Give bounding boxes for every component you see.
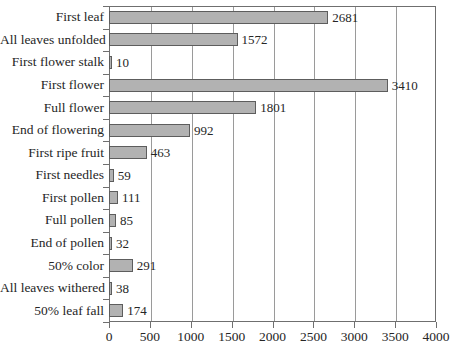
x-axis-tick (150, 322, 151, 328)
x-axis-tick (273, 322, 274, 328)
category-label: All leaves unfolded (0, 33, 104, 47)
bar-row: 85 (109, 213, 436, 227)
bar-value-label: 2681 (328, 11, 358, 24)
bar-series: 2681157210341018019924635911185322913817… (109, 6, 436, 322)
x-axis-tick-label: 3000 (341, 329, 368, 345)
bar-value-label: 38 (112, 282, 129, 295)
bar-value-label: 85 (116, 214, 133, 227)
bar (109, 259, 133, 272)
category-label: First ripe fruit (0, 146, 104, 160)
bar (109, 33, 238, 46)
bar-value-label: 174 (123, 304, 147, 317)
x-axis-tick-labels: 05001000150020002500300035004000 (109, 329, 436, 347)
bar-row: 174 (109, 304, 436, 318)
bar-row: 59 (109, 168, 436, 182)
x-axis-tick-label: 1500 (218, 329, 245, 345)
bar-row: 32 (109, 236, 436, 250)
category-label: 50% leaf fall (0, 304, 104, 318)
bar-value-label: 992 (190, 124, 214, 137)
bar-value-label: 10 (112, 56, 129, 69)
bar (109, 79, 388, 92)
bar-chart: First leafAll leaves unfoldedFirst flowe… (0, 0, 454, 349)
x-axis-tick-label: 0 (106, 329, 113, 345)
category-label: End of flowering (0, 123, 104, 137)
x-axis-tick (436, 322, 437, 328)
x-axis-tick-label: 2000 (259, 329, 286, 345)
bar-row: 1572 (109, 33, 436, 47)
category-label: First pollen (0, 191, 104, 205)
bar-row: 2681 (109, 10, 436, 24)
category-label: First flower stalk (0, 55, 104, 69)
x-axis-tick-label: 2500 (300, 329, 327, 345)
bar-value-label: 1572 (238, 33, 268, 46)
bar-row: 3410 (109, 78, 436, 92)
bar-value-label: 3410 (388, 79, 418, 92)
x-axis-tick-label: 1000 (177, 329, 204, 345)
bar-row: 992 (109, 123, 436, 137)
x-axis-tick (232, 322, 233, 328)
x-axis-tick-label: 3500 (382, 329, 409, 345)
bar (109, 191, 118, 204)
bar-row: 10 (109, 55, 436, 69)
bar-row: 38 (109, 281, 436, 295)
category-label: 50% color (0, 259, 104, 273)
category-label: First flower (0, 78, 104, 92)
bar-row: 463 (109, 146, 436, 160)
bar (109, 146, 147, 159)
bar-value-label: 463 (147, 146, 171, 159)
x-axis-tick (313, 322, 314, 328)
bar-value-label: 59 (114, 169, 131, 182)
category-label: All leaves withered (0, 281, 104, 295)
bar-value-label: 111 (118, 191, 141, 204)
bar (109, 304, 123, 317)
category-label: Full pollen (0, 213, 104, 227)
category-label: First needles (0, 168, 104, 182)
bar (109, 214, 116, 227)
category-axis-labels: First leafAll leaves unfoldedFirst flowe… (0, 6, 104, 322)
category-label: Full flower (0, 101, 104, 115)
x-axis-tick (354, 322, 355, 328)
bar-value-label: 1801 (256, 101, 286, 114)
x-axis-tick (109, 322, 110, 328)
bar (109, 11, 328, 24)
bar-value-label: 32 (112, 237, 129, 250)
x-axis-tick (395, 322, 396, 328)
bar-row: 111 (109, 191, 436, 205)
category-label: First leaf (0, 10, 104, 24)
category-label: End of pollen (0, 236, 104, 250)
bar (109, 101, 256, 114)
bar (109, 124, 190, 137)
bar-value-label: 291 (133, 259, 157, 272)
x-axis-tick-label: 4000 (423, 329, 450, 345)
bar-row: 1801 (109, 101, 436, 115)
x-axis-tick-label: 500 (140, 329, 160, 345)
x-axis-ticks (109, 322, 436, 328)
bar-row: 291 (109, 259, 436, 273)
x-axis-tick (191, 322, 192, 328)
